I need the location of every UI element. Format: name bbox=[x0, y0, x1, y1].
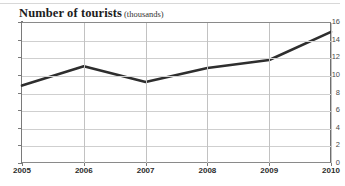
x-axis-tick-label: 2007 bbox=[132, 166, 160, 175]
y-axis-tick-mark bbox=[18, 93, 22, 94]
gridline-horizontal bbox=[22, 94, 331, 95]
y-axis-tick-mark bbox=[18, 75, 22, 76]
x-axis-tick-label: 2005 bbox=[8, 166, 36, 175]
gridline-vertical bbox=[84, 23, 85, 164]
y-axis-tick-mark bbox=[18, 128, 22, 129]
gridline-horizontal bbox=[22, 76, 331, 77]
gridline-vertical bbox=[269, 23, 270, 164]
x-axis-tick-mark bbox=[22, 163, 23, 166]
x-axis-tick-mark bbox=[331, 163, 332, 166]
y-axis-tick-mark bbox=[18, 110, 22, 111]
chart-title-main: Number of tourists bbox=[19, 6, 122, 20]
top-divider bbox=[0, 3, 340, 4]
x-axis-tick-mark bbox=[207, 163, 208, 166]
gridline-vertical bbox=[146, 23, 147, 164]
gridline-horizontal bbox=[22, 129, 331, 130]
plot-area bbox=[22, 22, 331, 163]
gridline-vertical bbox=[207, 23, 208, 164]
y-axis-tick-label: 2 bbox=[324, 140, 340, 149]
y-axis-tick-label: 16 bbox=[324, 17, 340, 26]
y-axis-tick-label: 6 bbox=[324, 105, 340, 114]
y-axis-tick-label: 8 bbox=[324, 88, 340, 97]
x-axis-tick-label: 2006 bbox=[70, 166, 98, 175]
gridline-horizontal bbox=[22, 111, 331, 112]
y-axis-tick-mark bbox=[18, 145, 22, 146]
y-axis-tick-label: 10 bbox=[324, 70, 340, 79]
x-axis-tick-mark bbox=[269, 163, 270, 166]
x-axis-tick-label: 2009 bbox=[255, 166, 283, 175]
y-axis-tick-mark bbox=[18, 57, 22, 58]
gridline-horizontal bbox=[22, 41, 331, 42]
x-axis-tick-mark bbox=[146, 163, 147, 166]
y-axis-tick-label: 14 bbox=[324, 35, 340, 44]
x-axis-tick-label: 2008 bbox=[193, 166, 221, 175]
x-axis-tick-mark bbox=[84, 163, 85, 166]
y-axis-tick-mark bbox=[18, 40, 22, 41]
chart-title: Number of tourists(thousands) bbox=[19, 5, 164, 21]
gridline-horizontal bbox=[22, 146, 331, 147]
x-axis-tick-label: 2010 bbox=[317, 166, 345, 175]
chart-title-units: (thousands) bbox=[124, 9, 164, 19]
gridline-horizontal bbox=[22, 58, 331, 59]
y-axis-tick-label: 4 bbox=[324, 123, 340, 132]
y-axis-tick-label: 12 bbox=[324, 52, 340, 61]
y-axis-tick-mark bbox=[18, 22, 22, 23]
